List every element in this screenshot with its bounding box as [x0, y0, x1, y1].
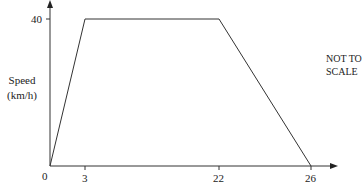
x-tick-label-3: 3	[82, 172, 88, 184]
y-axis-label: Speed (km/h)	[6, 74, 38, 101]
y-tick-label-40: 40	[31, 13, 42, 25]
origin-label: 0	[42, 170, 48, 182]
y-axis-arrow-icon	[47, 0, 53, 8]
not-to-scale-note: NOT TO SCALE	[326, 52, 362, 78]
note-line2: SCALE	[326, 65, 362, 78]
speed-time-graph	[0, 0, 364, 189]
x-axis-arrow-icon	[330, 163, 338, 169]
speed-line	[50, 19, 311, 166]
x-tick-label-26: 26	[305, 172, 316, 184]
y-axis-label-line1: Speed	[6, 74, 38, 86]
x-tick-label-22: 22	[213, 172, 224, 184]
y-axis-label-line2: (km/h)	[6, 89, 38, 101]
note-line1: NOT TO	[326, 52, 362, 65]
